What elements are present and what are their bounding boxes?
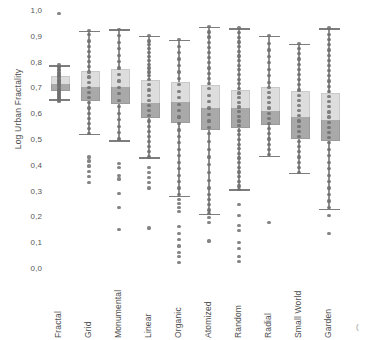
data-point	[147, 181, 150, 184]
box-plot-column[interactable]	[254, 0, 284, 290]
data-point	[207, 208, 210, 211]
data-point	[147, 155, 150, 158]
data-point	[327, 199, 330, 202]
data-point	[147, 104, 150, 107]
data-point	[87, 155, 90, 158]
data-point	[87, 65, 90, 68]
data-point	[177, 64, 180, 67]
data-point	[117, 60, 120, 63]
data-point	[177, 109, 180, 112]
data-point	[207, 186, 210, 189]
data-point	[87, 39, 90, 42]
data-point	[177, 180, 180, 183]
box-plot-column[interactable]	[164, 0, 194, 290]
data-point	[117, 112, 120, 115]
data-point	[237, 229, 240, 232]
data-point	[177, 96, 180, 99]
data-point	[237, 255, 240, 258]
data-point	[87, 96, 90, 99]
data-point	[177, 198, 180, 201]
data-point	[237, 166, 240, 169]
data-point	[177, 174, 180, 177]
x-tick-label: Organic	[173, 307, 183, 338]
data-point	[237, 45, 240, 48]
y-tick-label: 0,5	[16, 135, 42, 144]
data-point	[237, 188, 240, 191]
data-point	[207, 94, 210, 97]
box-plot-column[interactable]	[74, 0, 104, 290]
box-plot-column[interactable]	[44, 0, 74, 290]
data-point	[207, 46, 210, 49]
data-point	[87, 75, 90, 78]
data-point	[117, 174, 120, 177]
data-point	[327, 95, 330, 98]
data-point	[327, 74, 330, 77]
data-point	[207, 100, 210, 103]
data-point	[297, 52, 300, 55]
data-point	[327, 154, 330, 157]
data-point	[207, 171, 210, 174]
data-point	[237, 147, 240, 150]
data-point	[327, 64, 330, 67]
data-point	[327, 161, 330, 164]
data-point	[177, 244, 180, 247]
data-point	[117, 79, 120, 82]
data-point	[147, 166, 150, 169]
data-point	[327, 85, 330, 88]
data-point	[117, 125, 120, 128]
data-point	[237, 50, 240, 53]
box-plot-column[interactable]	[284, 0, 314, 290]
x-axis-labels: FractalGridMonumentalLinearOrganicAtomiz…	[44, 292, 344, 340]
box-plot-column[interactable]	[194, 0, 224, 290]
data-point	[207, 82, 210, 85]
data-point	[297, 83, 300, 86]
data-point	[207, 106, 210, 109]
data-point	[117, 228, 120, 231]
data-point	[87, 127, 90, 130]
box-plot-column[interactable]	[314, 0, 344, 290]
data-point	[267, 61, 270, 64]
data-point	[267, 106, 270, 109]
data-point	[207, 35, 210, 38]
data-point	[297, 150, 300, 153]
data-point	[237, 175, 240, 178]
box-plot-column[interactable]	[134, 0, 164, 290]
data-point	[207, 56, 210, 59]
data-point	[327, 206, 330, 209]
data-point	[297, 130, 300, 133]
data-point	[297, 171, 300, 174]
data-point	[207, 87, 210, 90]
data-point	[87, 122, 90, 125]
data-point	[327, 232, 330, 235]
data-point	[267, 96, 270, 99]
data-point	[117, 99, 120, 102]
box-plot-column[interactable]	[104, 0, 134, 290]
data-point	[117, 66, 120, 69]
data-point	[237, 101, 240, 104]
data-point	[177, 45, 180, 48]
box-plot-column[interactable]	[224, 0, 254, 290]
box-lower-quartile	[81, 87, 100, 101]
plot-area	[44, 0, 344, 290]
x-tick-label: Fractal	[53, 311, 63, 338]
data-point	[267, 153, 270, 156]
data-point	[327, 79, 330, 82]
data-point	[327, 69, 330, 72]
data-point	[297, 57, 300, 60]
data-point	[237, 124, 240, 127]
data-point	[177, 154, 180, 157]
data-point	[117, 28, 120, 31]
data-point	[327, 33, 330, 36]
data-point	[237, 110, 240, 113]
data-point	[207, 155, 210, 158]
data-point	[87, 159, 90, 162]
data-point	[297, 94, 300, 97]
data-point	[237, 203, 240, 206]
data-point	[177, 141, 180, 144]
data-point	[267, 143, 270, 146]
data-point	[207, 221, 210, 224]
data-point	[87, 106, 90, 109]
data-point	[327, 90, 330, 93]
data-point	[207, 77, 210, 80]
data-point	[207, 163, 210, 166]
